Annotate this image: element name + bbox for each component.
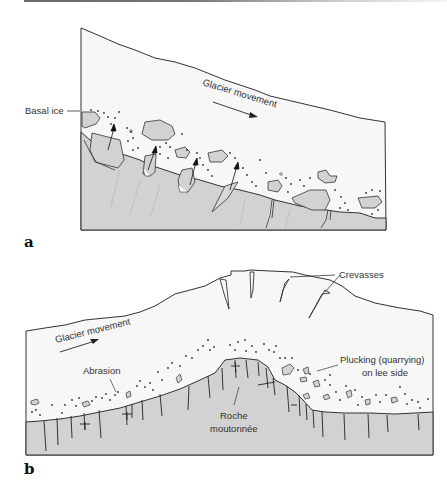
label-basal-ice: Basal ice xyxy=(25,105,64,116)
panel-a: Glacier movement Basal ice a xyxy=(24,28,386,251)
label-lee-side: on lee side xyxy=(362,367,408,378)
panel-letter-a: a xyxy=(24,233,34,251)
glacier-diagram: Glacier movement Basal ice a xyxy=(0,0,447,489)
label-moutonnee: moutonnée xyxy=(210,423,258,434)
panel-b: Crevasses Glacier movement Abrasion Pluc… xyxy=(24,269,433,478)
panel-letter-b: b xyxy=(24,460,35,478)
label-crevasses: Crevasses xyxy=(339,269,384,280)
label-roche: Roche xyxy=(220,410,247,421)
label-abrasion: Abrasion xyxy=(83,365,121,376)
label-plucking: Plucking (quarrying) xyxy=(340,354,424,365)
